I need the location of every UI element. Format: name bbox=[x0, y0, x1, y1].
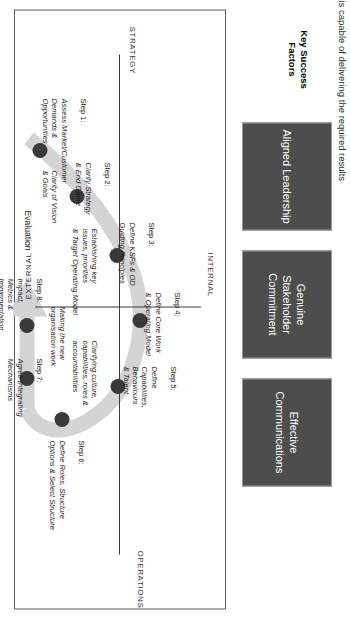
step-8-text: Impact, Metrics & Implementation bbox=[0, 278, 25, 330]
step-5-number: Step 5: bbox=[168, 366, 177, 407]
step-label-6: Step 6: Define Roles, Structure Options … bbox=[39, 440, 95, 529]
step-3-number: Step 3: bbox=[146, 222, 155, 285]
step-7-number: Step 7: bbox=[34, 358, 43, 416]
annotation-establishing-key-issues: Establishing key issues, priorities & Ta… bbox=[71, 228, 99, 315]
step-label-7: Step 7: Agree Integrating Mechanisms bbox=[0, 358, 53, 416]
step-2-number: Step 2: bbox=[102, 162, 111, 214]
axis-label-internal: INTERNAL bbox=[206, 252, 215, 296]
step-label-3: Step 3: Define KSFs & OD Guiding Princip… bbox=[109, 222, 165, 285]
axis-label-strategy: STRATEGY bbox=[128, 26, 137, 73]
diagram-frame: INTERNAL EXTERNAL STRATEGY OPERATIONS St… bbox=[14, 9, 226, 609]
step-4-text: Define Core Work & Operating Model bbox=[144, 292, 163, 355]
axis-label-operations: OPERATIONS bbox=[136, 550, 145, 608]
step-5-text: Define Capabilities, Behaviours & Talent bbox=[121, 366, 159, 407]
step-8-number: Step 8: bbox=[34, 278, 43, 330]
step-label-4: Step 4: Define Core Work & Operating Mod… bbox=[135, 292, 191, 355]
ksf-box-genuine-stakeholder-commitment: Genuine Stakeholder Commitment bbox=[242, 250, 332, 358]
step-label-5: Step 5: Define Capabilities, Behaviours … bbox=[112, 366, 187, 407]
ksf-box-effective-communications: Effective Communications bbox=[242, 378, 332, 486]
evaluation-label: Evaluation bbox=[23, 210, 33, 250]
diagram-stage: is capable of delivering the required re… bbox=[0, 0, 350, 625]
step-2-text: Clarify Strategy & End Game bbox=[74, 162, 93, 214]
step-3-text: Define KSFs & OD Guiding Principles bbox=[118, 222, 137, 285]
step-label-2: Step 2: Clarify Strategy & End Game bbox=[65, 162, 121, 214]
annotation-making-org-work: Making the new organisation work bbox=[48, 306, 67, 366]
annotation-clarity-of-vision: Clarity of Vision & Goals bbox=[40, 170, 59, 223]
step-dot-6 bbox=[55, 412, 70, 427]
annotation-clarifying-culture: Clarifying culture, capabilities, roles … bbox=[71, 340, 99, 405]
step-4-number: Step 4: bbox=[172, 292, 181, 355]
clipped-caption: is capable of delivering the required re… bbox=[337, 0, 348, 625]
key-success-factors-title: Key Success Factors bbox=[286, 14, 310, 104]
step-7-text: Agree Integrating Mechanisms bbox=[6, 358, 25, 416]
step-6-number: Step 6: bbox=[76, 440, 85, 529]
step-6-text: Define Roles, Structure Options & Select… bbox=[48, 440, 67, 529]
ksf-box-aligned-leadership: Aligned Leadership bbox=[242, 122, 332, 230]
axis-horizontal bbox=[119, 54, 120, 554]
step-label-8: Step 8: Impact, Metrics & Implementation bbox=[0, 278, 53, 330]
